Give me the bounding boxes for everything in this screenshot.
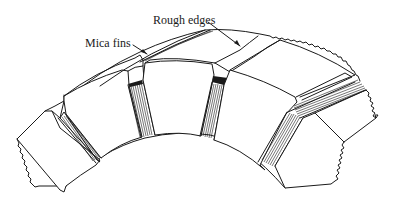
commutator-diagram xyxy=(0,0,411,206)
commutator-drawing xyxy=(0,0,411,206)
label-rough-edges: Rough edges xyxy=(153,14,215,26)
segment-5 xyxy=(275,113,344,188)
label-mica-fins: Mica fins xyxy=(85,37,131,49)
